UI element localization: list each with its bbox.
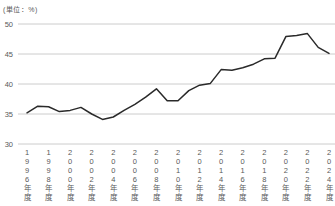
line-chart: (単位：%) 5045403530 1996年度1998年度2000年度2002… [0, 0, 335, 206]
y-tick-label: 35 [5, 110, 13, 119]
y-tick-label: 50 [5, 20, 13, 29]
plot-area: 5045403530 [0, 0, 335, 206]
y-tick-label: 30 [5, 140, 13, 149]
y-tick-label: 40 [5, 80, 13, 89]
data-line [27, 34, 329, 120]
y-tick-label: 45 [5, 50, 13, 59]
